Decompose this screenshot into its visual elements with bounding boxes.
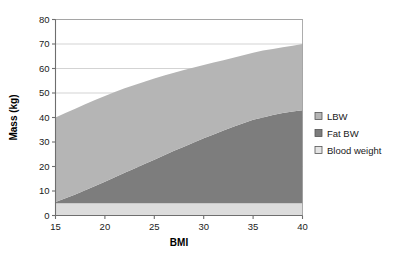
y-tick-label-30: 30 — [39, 136, 50, 147]
chart-container: 01020304050607080 152025303540 BMI Mass … — [0, 0, 404, 260]
area-series-blood-weight — [56, 203, 303, 215]
x-tick-label-15: 15 — [50, 221, 61, 232]
legend-label-fat-bw: Fat BW — [327, 128, 359, 139]
y-tick-label-20: 20 — [39, 161, 50, 172]
y-tick-label-10: 10 — [39, 185, 50, 196]
y-tick-label-80: 80 — [39, 14, 50, 25]
legend-label-lbw: LBW — [327, 111, 348, 122]
x-tick-label-30: 30 — [198, 221, 209, 232]
x-tick-label-40: 40 — [297, 221, 308, 232]
y-axis-title: Mass (kg) — [8, 94, 19, 140]
x-axis-title: BMI — [170, 237, 189, 248]
legend-swatch-fat-bw — [315, 130, 322, 137]
legend-swatch-lbw — [315, 113, 322, 120]
bmi-body-composition-area-chart: 01020304050607080 152025303540 BMI Mass … — [0, 0, 404, 260]
x-tick-label-20: 20 — [100, 221, 111, 232]
x-tick-label-35: 35 — [248, 221, 259, 232]
y-tick-label-60: 60 — [39, 63, 50, 74]
y-tick-label-70: 70 — [39, 38, 50, 49]
x-tick-label-25: 25 — [149, 221, 160, 232]
legend-label-blood-weight: Blood weight — [327, 145, 382, 156]
y-tick-label-50: 50 — [39, 87, 50, 98]
legend-swatch-blood-weight — [315, 147, 322, 154]
y-tick-label-0: 0 — [44, 210, 49, 221]
y-tick-label-40: 40 — [39, 112, 50, 123]
